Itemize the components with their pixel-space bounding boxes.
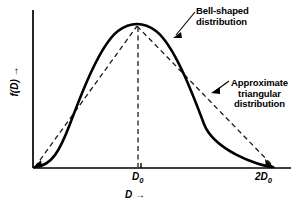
triangular-label-arrowhead <box>211 87 220 94</box>
triangular-annotation-line-3: distribution <box>231 99 288 110</box>
x-axis-arrow-icon: → <box>135 189 145 200</box>
triangular-annotation: Approximate triangular distribution <box>231 78 288 110</box>
x-axis-title: D → <box>125 189 145 200</box>
triangle-left-side <box>35 26 137 167</box>
origin-arrowhead <box>33 160 42 168</box>
x-tick-label-two-d0: 2D0 <box>255 171 272 185</box>
y-axis-title-symbol: f(D) <box>9 79 20 96</box>
x-tick-label-two-d0-symbol: 2D <box>255 171 268 182</box>
x-tick-label-two-d0-subscript: 0 <box>268 176 272 185</box>
distribution-figure: Bell-shaped distribution Approximate tri… <box>0 0 303 210</box>
y-axis-arrow-icon: → <box>9 67 20 77</box>
bell-annotation-line-2: distribution <box>196 17 249 28</box>
y-axis-title: f(D) → <box>9 57 20 107</box>
x-tick-label-d0-subscript: 0 <box>139 176 143 185</box>
x-axis-title-symbol: D <box>125 189 132 200</box>
bell-shaped-annotation: Bell-shaped distribution <box>196 6 249 27</box>
x-tick-label-d0: D0 <box>132 171 143 185</box>
bell-label-leader <box>176 12 195 35</box>
